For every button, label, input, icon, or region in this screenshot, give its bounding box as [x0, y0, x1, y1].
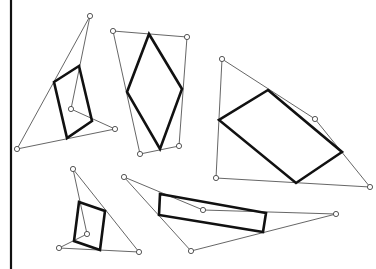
- figure-2: [110, 28, 189, 156]
- vertex-point: [84, 231, 89, 236]
- vertex-point: [312, 116, 317, 121]
- vertex-point: [367, 184, 372, 189]
- vertex-point: [333, 211, 338, 216]
- vertex-point: [56, 245, 61, 250]
- vertex-point: [136, 249, 141, 254]
- vertex-point: [137, 151, 142, 156]
- vertex-point: [176, 143, 181, 148]
- vertex-point: [112, 126, 117, 131]
- inscribed-parallelogram: [219, 90, 342, 183]
- vertex-point: [184, 34, 189, 39]
- vertex-point: [14, 146, 19, 151]
- vertex-point: [121, 174, 126, 179]
- vertex-point: [70, 166, 75, 171]
- inscribed-parallelogram: [74, 202, 105, 250]
- vertex-point: [87, 13, 92, 18]
- diagram-canvas: [0, 0, 376, 269]
- figure-5: [121, 174, 338, 253]
- vertex-point: [213, 175, 218, 180]
- vertex-point: [219, 56, 224, 61]
- figure-3: [213, 56, 372, 189]
- vertex-point: [110, 28, 115, 33]
- outline-quadrilateral: [59, 169, 139, 252]
- outline-quadrilateral: [216, 59, 370, 187]
- figure-1: [14, 13, 117, 151]
- outline-quadrilateral: [124, 177, 336, 251]
- outline-quadrilateral: [113, 31, 187, 154]
- vertex-point: [68, 106, 73, 111]
- figure-4: [56, 166, 141, 254]
- inscribed-parallelogram: [54, 66, 92, 138]
- vertex-point: [200, 207, 205, 212]
- inscribed-parallelogram: [159, 194, 266, 232]
- vertex-point: [188, 248, 193, 253]
